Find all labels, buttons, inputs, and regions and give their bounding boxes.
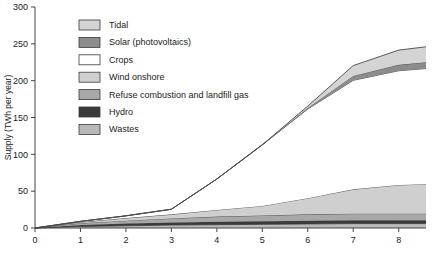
x-tick-label-3: 3 xyxy=(169,235,174,245)
y-tick-label-0: 0 xyxy=(23,223,28,233)
legend-label-refuse-combustion-and-landfill-gas: Refuse combustion and landfill gas xyxy=(109,90,249,100)
chart-container: 050100150200250300012345678Supply (TWh p… xyxy=(0,0,433,255)
legend-swatch-refuse-combustion-and-landfill-gas xyxy=(79,90,100,100)
legend-swatch-solar-photovoltaics xyxy=(79,37,100,47)
supply-stacked-area-chart: 050100150200250300012345678Supply (TWh p… xyxy=(0,0,433,255)
x-tick-label-5: 5 xyxy=(260,235,265,245)
x-tick-label-4: 4 xyxy=(214,235,219,245)
x-tick-label-6: 6 xyxy=(305,235,310,245)
legend-label-solar-photovoltaics: Solar (photovoltaics) xyxy=(109,37,191,47)
legend-swatch-hydro xyxy=(79,107,100,117)
y-tick-label-100: 100 xyxy=(13,150,28,160)
legend-label-wastes: Wastes xyxy=(109,124,139,134)
legend-label-hydro: Hydro xyxy=(109,107,133,117)
legend-label-wind-onshore: Wind onshore xyxy=(109,72,165,82)
legend-swatch-wastes xyxy=(79,124,100,134)
x-tick-label-7: 7 xyxy=(351,235,356,245)
y-tick-label-150: 150 xyxy=(13,113,28,123)
x-tick-label-8: 8 xyxy=(396,235,401,245)
y-tick-label-250: 250 xyxy=(13,39,28,49)
legend-label-crops: Crops xyxy=(109,55,134,65)
y-tick-label-300: 300 xyxy=(13,2,28,12)
x-tick-label-0: 0 xyxy=(32,235,37,245)
x-tick-label-1: 1 xyxy=(78,235,83,245)
legend-swatch-tidal xyxy=(79,20,100,30)
y-tick-label-50: 50 xyxy=(18,186,28,196)
legend-swatch-wind-onshore xyxy=(79,72,100,82)
x-tick-label-2: 2 xyxy=(123,235,128,245)
legend-swatch-crops xyxy=(79,55,100,65)
y-axis-label: Supply (TWh per year) xyxy=(3,75,13,161)
legend-label-tidal: Tidal xyxy=(109,20,128,30)
y-tick-label-200: 200 xyxy=(13,76,28,86)
